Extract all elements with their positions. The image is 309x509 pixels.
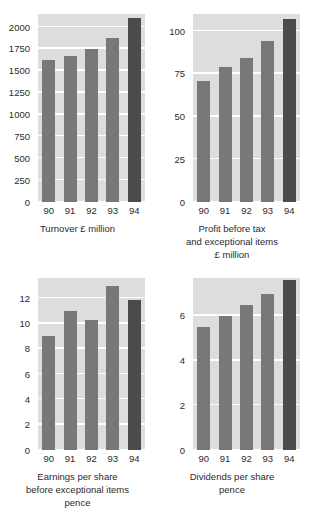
- bar-94: [283, 19, 296, 202]
- x-tick-label: 93: [106, 454, 119, 464]
- x-axis-earnings-per-share: 9091929394: [38, 454, 145, 464]
- x-axis-turnover: 9091929394: [38, 206, 145, 216]
- y-axis-dividends-per-share: 0246: [155, 278, 189, 450]
- bar-series-earnings-per-share: [38, 278, 145, 450]
- caption-turnover: Turnover £ million: [0, 222, 155, 235]
- x-axis-profit-before-tax: 9091929394: [193, 206, 300, 216]
- y-tick-label: 2: [180, 401, 185, 411]
- caption-line: pence: [155, 483, 309, 496]
- x-tick-label: 91: [64, 206, 77, 216]
- caption-line: £ million: [155, 248, 309, 261]
- bar-90: [42, 336, 55, 450]
- bar-93: [261, 41, 274, 202]
- y-tick-label: 100: [169, 26, 185, 36]
- x-tick-label: 92: [240, 454, 253, 464]
- bar-92: [85, 320, 98, 450]
- x-tick-label: 92: [240, 206, 253, 216]
- y-tick-label: 250: [14, 175, 30, 185]
- x-tick-label: 90: [197, 454, 210, 464]
- plot-area-turnover: [38, 14, 145, 202]
- bar-94: [128, 300, 141, 451]
- caption-line: Profit before tax: [155, 222, 309, 235]
- bar-90: [42, 60, 55, 202]
- y-tick-label: 4: [25, 395, 30, 405]
- plot-area-profit-before-tax: [193, 14, 300, 202]
- bar-93: [106, 38, 119, 202]
- x-tick-label: 93: [261, 454, 274, 464]
- x-tick-label: 94: [283, 454, 296, 464]
- x-tick-label: 91: [64, 454, 77, 464]
- bar-93: [106, 286, 119, 450]
- caption-line: pence: [0, 496, 155, 509]
- bar-92: [240, 305, 253, 450]
- bar-94: [283, 280, 296, 450]
- y-tick-label: 500: [14, 154, 30, 164]
- y-tick-label: 1500: [9, 66, 30, 76]
- bar-91: [64, 311, 77, 450]
- bar-91: [219, 67, 232, 202]
- y-tick-label: 10: [19, 319, 30, 329]
- x-tick-label: 94: [128, 206, 141, 216]
- y-tick-label: 1250: [9, 88, 30, 98]
- bar-94: [128, 18, 141, 202]
- y-tick-label: 6: [180, 311, 185, 321]
- x-tick-label: 91: [219, 454, 232, 464]
- caption-line: Earnings per share: [0, 470, 155, 483]
- plot-area-earnings-per-share: [38, 278, 145, 450]
- y-axis-earnings-per-share: 024681012: [0, 278, 34, 450]
- x-tick-label: 94: [128, 454, 141, 464]
- caption-line: Dividends per share: [155, 470, 309, 483]
- y-tick-label: 4: [180, 356, 185, 366]
- y-tick-label: 6: [25, 369, 30, 379]
- bar-93: [261, 294, 274, 450]
- caption-earnings-per-share: Earnings per sharebefore exceptional ite…: [0, 470, 155, 509]
- bar-series-profit-before-tax: [193, 14, 300, 202]
- y-tick-label: 0: [180, 197, 185, 207]
- caption-dividends-per-share: Dividends per sharepence: [155, 470, 309, 496]
- y-axis-turnover: 025050075010001250150017502000: [0, 14, 34, 202]
- bar-series-dividends-per-share: [193, 278, 300, 450]
- chart-panel-profit-before-tax: 0255075100 9091929394 Profit before taxa…: [155, 0, 309, 252]
- y-tick-label: 0: [25, 445, 30, 455]
- x-tick-label: 92: [85, 454, 98, 464]
- x-tick-label: 93: [106, 206, 119, 216]
- bar-92: [240, 58, 253, 202]
- y-tick-label: 25: [174, 155, 185, 165]
- x-tick-label: 90: [42, 206, 55, 216]
- y-tick-label: 2: [25, 420, 30, 430]
- plot-area-dividends-per-share: [193, 278, 300, 450]
- x-tick-label: 90: [197, 206, 210, 216]
- caption-line: and exceptional items: [155, 235, 309, 248]
- y-tick-label: 2000: [9, 22, 30, 32]
- caption-profit-before-tax: Profit before taxand exceptional items£ …: [155, 222, 309, 261]
- chart-panel-turnover: 025050075010001250150017502000 909192939…: [0, 0, 155, 252]
- y-tick-label: 1000: [9, 110, 30, 120]
- y-tick-label: 8: [25, 344, 30, 354]
- chart-panel-dividends-per-share: 0246 9091929394 Dividends per sharepence: [155, 264, 309, 498]
- bar-92: [85, 49, 98, 202]
- x-axis-dividends-per-share: 9091929394: [193, 454, 300, 464]
- y-tick-label: 75: [174, 69, 185, 79]
- bar-91: [219, 316, 232, 450]
- caption-line: before exceptional items: [0, 483, 155, 496]
- bar-90: [197, 327, 210, 450]
- bar-91: [64, 56, 77, 202]
- caption-line: Turnover £ million: [0, 222, 155, 235]
- y-tick-label: 1750: [9, 44, 30, 54]
- bar-series-turnover: [38, 14, 145, 202]
- x-tick-label: 92: [85, 206, 98, 216]
- x-tick-label: 90: [42, 454, 55, 464]
- y-tick-label: 0: [25, 197, 30, 207]
- y-axis-profit-before-tax: 0255075100: [155, 14, 189, 202]
- y-tick-label: 50: [174, 112, 185, 122]
- bar-90: [197, 81, 210, 202]
- x-tick-label: 91: [219, 206, 232, 216]
- y-tick-label: 12: [19, 294, 30, 304]
- y-tick-label: 750: [14, 132, 30, 142]
- y-tick-label: 0: [180, 445, 185, 455]
- x-tick-label: 93: [261, 206, 274, 216]
- x-tick-label: 94: [283, 206, 296, 216]
- chart-panel-earnings-per-share: 024681012 9091929394 Earnings per shareb…: [0, 264, 155, 498]
